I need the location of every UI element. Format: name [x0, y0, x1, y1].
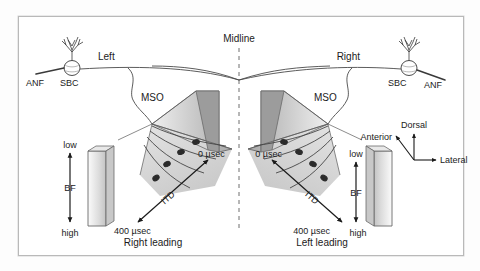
- left-itd-max-label: 400 µsec: [114, 226, 151, 236]
- left-bf-axis-label: BF: [64, 183, 76, 193]
- right-bf-axis-label: BF: [350, 188, 362, 198]
- right-bf-bar-side: [366, 146, 374, 226]
- right-itd-min-label: 0 µsec: [255, 149, 282, 159]
- right-anf-label: ANF: [424, 80, 443, 90]
- left-itd-min-label: 0 µsec: [198, 149, 225, 159]
- figure-page: Midline: [0, 0, 480, 271]
- right-leading-label: Left leading: [296, 237, 348, 248]
- left-anf-fiber: [36, 68, 64, 74]
- right-bf-bar: [374, 151, 392, 226]
- right-itd-max-label: 400 µsec: [293, 226, 330, 236]
- left-anf-label: ANF: [26, 78, 45, 88]
- left-bf-low-label: low: [63, 140, 77, 150]
- right-bf-low-label: low: [349, 149, 363, 159]
- right-bf-high-label: high: [349, 228, 366, 238]
- midline-label: Midline: [223, 33, 255, 44]
- right-sbc-group: SBC ANF: [388, 37, 445, 90]
- anterior-label: Anterior: [360, 132, 392, 142]
- left-leading-label: Right leading: [124, 237, 182, 248]
- right-mso-group: MSO low high BF ITD 0 µsec 400 µsec Left…: [248, 91, 392, 248]
- dorsal-label: Dorsal: [401, 120, 427, 130]
- neuron-cell-icon: [62, 37, 83, 76]
- left-sbc-group: ANF SBC: [26, 37, 83, 88]
- right-pathway-label: Right: [337, 51, 361, 62]
- left-bf-bar: [88, 151, 106, 226]
- midline-group: Midline: [223, 33, 255, 232]
- left-mso-group: MSO low high BF ITD 0 µsec 400 µsec Righ…: [61, 91, 232, 248]
- left-bf-high-label: high: [61, 228, 78, 238]
- left-pathway-label: Left: [98, 51, 115, 62]
- left-bf-bar-side: [106, 146, 114, 226]
- anterior-arrow-icon: [396, 136, 414, 160]
- right-mso-label: MSO: [314, 92, 337, 103]
- left-sbc-label: SBC: [60, 78, 79, 88]
- right-anf-fiber: [417, 70, 445, 80]
- right-sbc-label: SBC: [388, 78, 407, 88]
- mso-itd-diagram: Midline: [0, 0, 480, 271]
- lateral-label: Lateral: [440, 155, 468, 165]
- left-mso-label: MSO: [141, 92, 164, 103]
